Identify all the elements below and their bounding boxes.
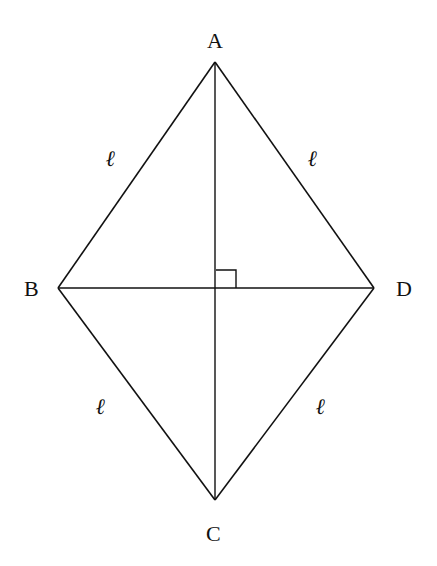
side-label-bc: ℓ [96,394,105,419]
vertex-label-b: B [24,276,39,301]
side-ad [215,62,374,288]
side-label-ad: ℓ [308,146,317,171]
side-cd [215,288,374,500]
side-label-ab: ℓ [106,146,115,171]
vertex-label-d: D [396,276,412,301]
vertex-label-a: A [207,28,223,53]
right-angle-marker [216,270,236,288]
vertex-label-c: C [206,521,221,546]
side-label-cd: ℓ [316,394,325,419]
rhombus-diagram: A B C D ℓ ℓ ℓ ℓ [0,0,437,566]
side-bc [58,288,215,500]
side-ab [58,62,215,288]
